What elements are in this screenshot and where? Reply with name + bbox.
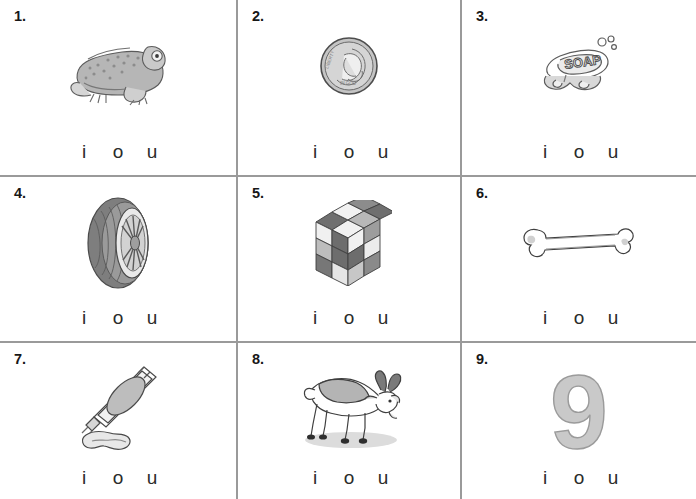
worksheet-cell[interactable]: 8.	[238, 343, 462, 499]
choice-letter-i[interactable]: i	[309, 308, 321, 327]
choice-letter-o[interactable]: o	[343, 308, 355, 327]
worksheet-page: 1.	[0, 0, 696, 499]
choice-letter-u[interactable]: u	[607, 468, 619, 487]
choice-row: i o u	[462, 142, 696, 161]
cube-icon	[238, 191, 460, 295]
toothpaste-tube-icon	[0, 359, 236, 459]
choice-row: i o u	[0, 468, 236, 487]
choice-letter-o[interactable]: o	[112, 308, 124, 327]
choice-letter-u[interactable]: u	[607, 142, 619, 161]
choice-letter-u[interactable]: u	[377, 142, 389, 161]
goat-icon	[238, 359, 460, 459]
choice-letter-i[interactable]: i	[78, 308, 90, 327]
choice-letter-o[interactable]: o	[112, 468, 124, 487]
choice-letter-i[interactable]: i	[539, 142, 551, 161]
numeral-nine-icon: 9	[462, 359, 696, 459]
choice-letter-o[interactable]: o	[573, 468, 585, 487]
choice-letter-u[interactable]: u	[377, 308, 389, 327]
choice-letter-o[interactable]: o	[573, 142, 585, 161]
choice-row: i o u	[238, 142, 460, 161]
worksheet-cell[interactable]: 4.	[0, 177, 238, 343]
choice-row: i o u	[238, 308, 460, 327]
worksheet-cell[interactable]: 1.	[0, 0, 238, 177]
choice-letter-o[interactable]: o	[573, 308, 585, 327]
choice-letter-i[interactable]: i	[78, 142, 90, 161]
choice-letter-i[interactable]: i	[539, 468, 551, 487]
dime-coin-icon: LIBERTY IN GOD	[238, 14, 460, 118]
choice-letter-i[interactable]: i	[78, 468, 90, 487]
choice-letter-u[interactable]: u	[146, 468, 158, 487]
choice-letter-o[interactable]: o	[343, 468, 355, 487]
worksheet-cell[interactable]: 9. 9 i o u	[462, 343, 696, 499]
choice-letter-o[interactable]: o	[112, 142, 124, 161]
tire-icon	[0, 191, 236, 295]
frog-icon	[0, 14, 236, 118]
choice-letter-i[interactable]: i	[539, 308, 551, 327]
choice-row: i o u	[462, 308, 696, 327]
item-number: 6.	[476, 186, 488, 201]
choice-letter-i[interactable]: i	[309, 142, 321, 161]
bone-icon	[462, 191, 696, 295]
svg-text:IN GOD: IN GOD	[340, 81, 357, 86]
choice-letter-i[interactable]: i	[309, 468, 321, 487]
choice-letter-u[interactable]: u	[377, 468, 389, 487]
choice-letter-u[interactable]: u	[146, 142, 158, 161]
choice-row: i o u	[0, 142, 236, 161]
worksheet-cell[interactable]: 2. LIBERTY IN GOD	[238, 0, 462, 177]
choice-row: i o u	[462, 468, 696, 487]
worksheet-cell[interactable]: 6. i o u	[462, 177, 696, 343]
soap-bar-icon: SOAP	[462, 14, 696, 118]
choice-row: i o u	[238, 468, 460, 487]
worksheet-cell[interactable]: 5.	[238, 177, 462, 343]
worksheet-cell[interactable]: 3. SOAP	[462, 0, 696, 177]
worksheet-cell[interactable]: 7.	[0, 343, 238, 499]
worksheet-grid: 1.	[0, 0, 696, 499]
choice-letter-o[interactable]: o	[343, 142, 355, 161]
choice-letter-u[interactable]: u	[607, 308, 619, 327]
nine-glyph: 9	[550, 360, 608, 458]
choice-letter-u[interactable]: u	[146, 308, 158, 327]
choice-row: i o u	[0, 308, 236, 327]
